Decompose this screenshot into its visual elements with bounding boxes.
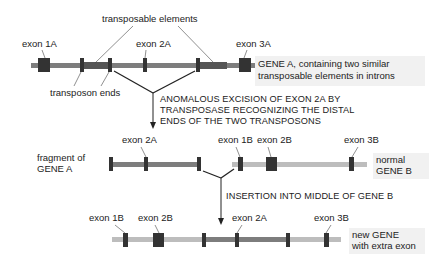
new-gene-exon-2b-label: exon 2B <box>138 212 173 223</box>
new-gene-exon-3b-label: exon 3B <box>314 212 349 223</box>
new-gene-backbone-a-insert <box>204 237 288 242</box>
gene-b-label-line2: GENE B <box>376 165 412 176</box>
transposon-ends-label: transposon ends <box>50 87 120 98</box>
new-gene-exon-1b-leader <box>115 225 125 233</box>
excision-caption-line3: ENDS OF THE TWO TRANSPOSONS <box>160 116 321 126</box>
exon-1a-label: exon 1A <box>22 38 58 49</box>
exon-2a <box>143 58 147 72</box>
gene-b-label-line1: normal <box>376 154 405 165</box>
exon-2a-leader <box>145 50 146 58</box>
gene-b-backbone <box>232 162 367 167</box>
gene-b-exon-2b-leader <box>268 147 271 157</box>
fragment-transposon-end-right <box>197 157 201 171</box>
gene-b-exon-2b <box>266 157 277 171</box>
exon-3a <box>239 58 251 72</box>
exon-1a <box>38 58 50 72</box>
new-gene-label-line1: new GENE <box>352 229 399 240</box>
transposable-elements-label: transposable elements <box>102 13 198 24</box>
excision-line-right <box>153 71 195 93</box>
fragment-backbone <box>110 162 198 167</box>
new-gene-exon-3b-leader <box>326 225 331 233</box>
insertion-caption: INSERTION INTO MIDDLE OF GENE B <box>226 191 393 201</box>
new-gene: exon 1B exon 2B exon 2A exon 3B new GENE… <box>89 212 425 254</box>
exon-1a-leader <box>42 50 45 58</box>
new-gene-exon-2a-leader <box>237 225 242 233</box>
fragment-exon-2a-label: exon 2A <box>122 134 158 145</box>
gene-b: exon 1B exon 2B exon 3B normal GENE B <box>218 134 429 179</box>
gene-b-exon-3b <box>349 157 354 171</box>
gene-b-exon-2b-label: exon 2B <box>257 134 292 145</box>
new-gene-exon-1b-label: exon 1B <box>89 212 124 223</box>
new-gene-transposon-end-right <box>286 233 290 247</box>
fragment-transposon-end-left <box>109 157 113 171</box>
diagram-canvas: exon 1A exon 2A exon 3A transposable ele… <box>0 0 442 263</box>
new-gene-exon-2b-leader <box>155 225 159 233</box>
fragment-exon-2a-leader <box>141 147 146 157</box>
gene-b-exon-3b-leader <box>352 147 358 157</box>
fragment-label-line1: fragment of <box>37 152 85 163</box>
new-gene-label-line2: with extra exon <box>351 240 416 251</box>
transposon-end-3 <box>196 58 200 72</box>
insertion-line-right <box>221 169 234 178</box>
new-gene-exon-2a <box>235 233 239 247</box>
exon-2a-label: exon 2A <box>136 38 172 49</box>
transposon-ends-leader-left <box>74 72 81 86</box>
excision-caption-line1: ANOMALOUS EXCISION OF EXON 2A BY <box>160 94 340 104</box>
exon-3a-label: exon 3A <box>236 38 272 49</box>
gene-a-description-line2: transposable elements in introns <box>258 70 395 81</box>
new-gene-transposon-end-left <box>202 233 206 247</box>
exon-3a-leader <box>244 50 247 58</box>
gene-b-exon-1b <box>238 157 243 171</box>
new-gene-exon-1b <box>123 233 128 247</box>
insertion-line-left <box>203 171 221 178</box>
insertion-arrow-head <box>218 218 224 225</box>
new-gene-exon-2a-label: exon 2A <box>232 212 268 223</box>
transposable-elements-leader-right <box>178 26 213 62</box>
new-gene-backbone-b-right <box>288 237 341 242</box>
fragment-label-line2: GENE A <box>37 163 73 174</box>
transposon-end-2 <box>108 58 112 72</box>
gene-b-exon-3b-label: exon 3B <box>344 134 379 145</box>
gene-b-exon-1b-leader <box>236 147 240 157</box>
fragment-exon-2a <box>144 157 148 171</box>
transposable-element-right <box>197 62 227 69</box>
excision-arrow-head <box>150 122 156 129</box>
gene-a-fragment: fragment of GENE A exon 2A <box>37 134 201 174</box>
transposon-end-1 <box>80 58 84 72</box>
gene-a-description-line1: GENE A, containing two similar <box>258 58 389 69</box>
excision-caption-line2: TRANSPOSASE RECOGNIZING THE DISTAL <box>160 105 355 115</box>
transposable-elements-leader-left <box>95 26 133 63</box>
gene-a: exon 1A exon 2A exon 3A transposable ele… <box>22 13 425 98</box>
transposon-ends-leader-right <box>101 72 109 86</box>
transposable-element-left <box>82 62 110 69</box>
new-gene-exon-2b <box>153 233 164 247</box>
new-gene-exon-3b <box>324 233 329 247</box>
gene-b-exon-1b-label: exon 1B <box>218 134 253 145</box>
